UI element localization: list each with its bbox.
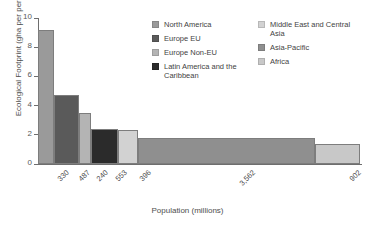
legend-swatch-icon [258,21,265,28]
y-tick-label: 8 [28,41,32,50]
y-tick-label: 6 [28,70,32,79]
ecological-footprint-chart: Ecological Footprint (gha per person) 02… [0,0,375,228]
y-tick-label: 4 [28,100,32,109]
legend-swatch-icon [258,44,265,51]
legend-item[interactable]: Middle East and Central Asia [258,20,364,38]
y-tick-label: 2 [28,129,32,138]
x-tick-label: 240 [94,168,109,183]
legend-label: North America [164,20,212,29]
legend-label: Europe EU [164,34,201,43]
legend-item[interactable]: Africa [258,57,364,66]
y-axis-title: Ecological Footprint (gha per person) [14,0,23,126]
x-tick-label: 553 [114,168,129,183]
legend-item[interactable]: Asia-Pacific [258,43,364,52]
legend-column-left: North AmericaEurope EUEurope Non-EULatin… [152,20,248,85]
x-axis-line [38,164,362,165]
legend-swatch-icon [152,35,159,42]
x-tick-label: 3,562 [238,168,258,188]
legend-item[interactable]: Latin America and the Caribbean [152,62,248,80]
bar-asia-pacific [138,138,315,164]
bar-latin-america-and-the-caribbean [91,129,119,164]
legend-label: Latin America and the Caribbean [164,62,248,80]
legend-column-right: Middle East and Central AsiaAsia-Pacific… [258,20,364,71]
bar-north-america [38,30,54,164]
bar-africa [315,144,360,164]
legend-label: Asia-Pacific [270,43,309,52]
legend-label: Africa [270,57,289,66]
y-tick-label: 10 [23,12,32,21]
x-tick-label: 330 [56,168,71,183]
legend-swatch-icon [258,58,265,65]
legend-swatch-icon [152,49,159,56]
legend-swatch-icon [152,63,159,70]
x-tick-label: 396 [138,168,153,183]
x-tick-label: 487 [76,168,91,183]
x-axis-title: Population (millions) [0,206,375,215]
legend-item[interactable]: North America [152,20,248,29]
y-tick-label: 0 [28,158,32,167]
legend-label: Middle East and Central Asia [270,20,364,38]
legend: North AmericaEurope EUEurope Non-EULatin… [152,20,364,86]
legend-item[interactable]: Europe EU [152,34,248,43]
legend-swatch-icon [152,21,159,28]
bar-europe-eu [54,95,78,164]
legend-item[interactable]: Europe Non-EU [152,48,248,57]
x-tick-label: 902 [347,168,362,183]
bar-europe-non-eu [79,113,91,164]
legend-label: Europe Non-EU [164,48,217,57]
bar-middle-east-and-central-asia [118,130,138,164]
